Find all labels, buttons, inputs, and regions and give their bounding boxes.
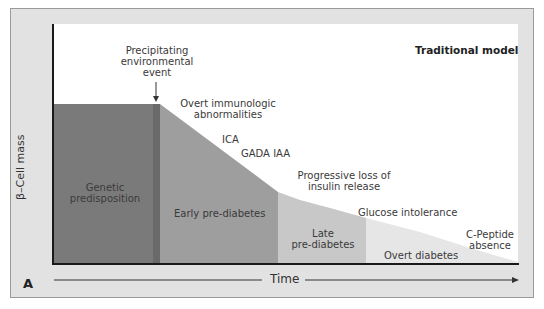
insulin-loss-line-2: insulin release — [296, 181, 392, 192]
stage-label-overt: Overt diabetes — [384, 250, 458, 261]
y-axis-label: β–Cell mass — [14, 135, 27, 201]
trigger-line-3: event — [120, 67, 194, 78]
panel-label: A — [23, 276, 33, 291]
ica-label: ICA — [222, 134, 239, 145]
genetic-line-1: Genetic — [62, 182, 148, 193]
late-line-2: pre-diabetes — [290, 239, 356, 250]
trigger-label: Precipitating environmental event — [120, 45, 194, 78]
trigger-line-2: environmental — [120, 56, 194, 67]
gada-iaa-label: GADA IAA — [241, 148, 290, 159]
cpeptide-label: C-Peptide absence — [462, 229, 518, 251]
cpeptide-line-1: C-Peptide — [462, 229, 518, 240]
insulin-loss-label: Progressive loss of insulin release — [296, 170, 392, 192]
late-line-1: Late — [290, 228, 356, 239]
immunologic-label: Overt immunologic abnormalities — [180, 98, 276, 120]
trigger-line-1: Precipitating — [120, 45, 194, 56]
stage-label-late: Late pre-diabetes — [290, 228, 356, 250]
immunologic-line-2: abnormalities — [180, 109, 276, 120]
glucose-label: Glucose intolerance — [358, 207, 457, 218]
stage-label-early: Early pre-diabetes — [174, 208, 265, 219]
cpeptide-line-2: absence — [462, 240, 518, 251]
insulin-loss-line-1: Progressive loss of — [296, 170, 392, 181]
immunologic-line-1: Overt immunologic — [180, 98, 276, 109]
model-title: Traditional model — [415, 44, 518, 56]
genetic-line-2: predisposition — [62, 193, 148, 204]
trigger-stripe — [153, 104, 160, 264]
x-axis-label: Time — [270, 272, 299, 286]
time-arrow-head — [512, 277, 519, 283]
stage-label-genetic: Genetic predisposition — [62, 182, 148, 204]
